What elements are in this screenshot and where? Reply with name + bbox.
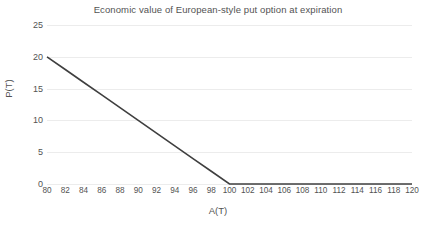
x-axis-label: A(T) [0,205,436,216]
chart-figure: Economic value of European-style put opt… [0,0,436,234]
y-tick-label: 5 [5,148,43,157]
y-tick-label: 15 [5,84,43,93]
data-series-line [47,57,412,184]
y-tick-label: 10 [5,116,43,125]
plot-area [47,25,412,184]
x-tick-label: 120 [397,187,427,195]
chart-title: Economic value of European-style put opt… [0,4,436,15]
y-tick-label: 25 [5,21,43,30]
x-axis-tick-labels: 8082848688909294969810010210410610811011… [47,187,412,199]
data-series-layer [47,25,412,184]
y-axis-tick-labels: 0510152025 [0,25,43,184]
y-tick-label: 20 [5,52,43,61]
